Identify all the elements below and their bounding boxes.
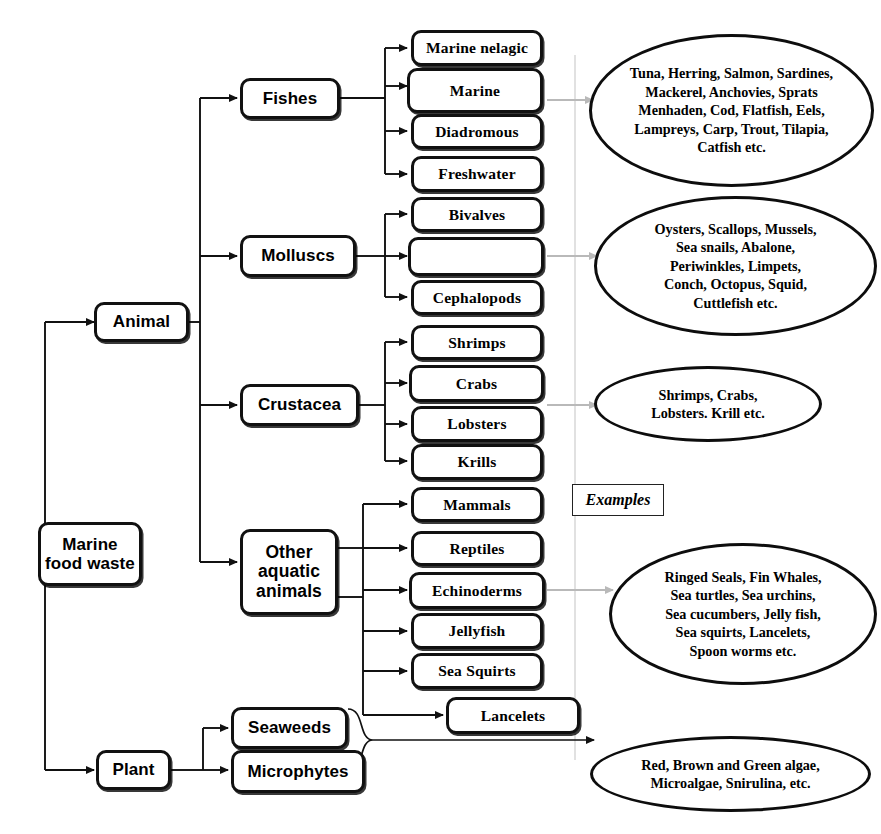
ellipse-text: Oysters, Scallops, Mussels, Sea snails, … [641,220,831,312]
node-seaweeds[interactable]: Seaweeds [231,707,348,749]
node-fishes[interactable]: Fishes [240,78,340,119]
node-other-aquatic-animals[interactable]: Other aquatic animals [240,529,338,615]
node-echinoderms[interactable]: Echinoderms [409,572,545,609]
ellipse-text: Ringed Seals, Fin Whales, Sea turtles, S… [650,568,835,660]
node-label: Marine [450,82,500,99]
node-label: Molluscs [261,246,335,265]
node-krills[interactable]: Krills [411,444,543,480]
node-label: Lobsters [447,415,506,432]
node-label: Freshwater [438,165,515,182]
ellipse-text: Shrimps, Crabs, Lobsters. Krill etc. [637,386,778,423]
node-crabs[interactable]: Crabs [409,365,544,402]
node-lancelets[interactable]: Lancelets [446,697,580,734]
ellipse-plant-examples: Red, Brown and Green algae, Microalgae, … [590,736,871,812]
ellipse-text: Tuna, Herring, Salmon, Sardines, Mackere… [616,64,847,156]
node-marine-nelagic[interactable]: Marine nelagic [411,30,543,66]
node-label: Fishes [263,89,317,108]
node-label: Lancelets [481,707,546,724]
node-jellyfish[interactable]: Jellyfish [411,613,543,649]
ellipse-crustacea-examples: Shrimps, Crabs, Lobsters. Krill etc. [594,366,822,442]
ellipse-fish-examples: Tuna, Herring, Salmon, Sardines, Mackere… [589,34,874,187]
node-diadromous[interactable]: Diadromous [411,114,543,149]
node-marine[interactable]: Marine [407,68,543,113]
node-label: Other aquatic animals [256,543,322,602]
diagram-canvas: Marine food waste Animal Plant Fishes Mo… [0,0,881,834]
node-bivalves[interactable]: Bivalves [411,197,543,232]
node-label: Echinoderms [432,582,522,599]
node-reptiles[interactable]: Reptiles [411,531,543,566]
node-label: Mammals [443,496,511,513]
node-cephalopods[interactable]: Cephalopods [411,280,543,315]
node-label: Shrimps [448,334,505,351]
node-label: Plant [112,760,154,779]
node-label: Diadromous [435,123,519,140]
node-lobsters[interactable]: Lobsters [411,406,543,442]
node-label: Seaweeds [248,718,331,737]
node-mammals[interactable]: Mammals [411,487,543,522]
examples-caption-label: Examples [586,491,651,509]
node-label: Jellyfish [449,622,506,639]
node-freshwater[interactable]: Freshwater [411,156,543,192]
ellipse-mollusc-examples: Oysters, Scallops, Mussels, Sea snails, … [594,196,877,336]
ellipse-text: Red, Brown and Green algae, Microalgae, … [627,756,833,793]
node-label: Microphytes [247,762,348,781]
node-marine-food-waste[interactable]: Marine food waste [38,522,142,586]
node-molluscs[interactable]: Molluscs [240,235,356,277]
examples-caption: Examples [572,484,664,516]
node-shrimps[interactable]: Shrimps [411,325,543,360]
node-label: Krills [457,453,496,470]
node-label: Reptiles [450,540,505,557]
node-label: Animal [113,312,170,331]
node-label: Crabs [456,375,497,392]
node-plant[interactable]: Plant [96,750,171,790]
node-sea-squirts[interactable]: Sea Squirts [411,653,543,689]
node-crustacea[interactable]: Crustacea [240,384,359,426]
node-label: Bivalves [449,206,506,223]
node-mollusc-unlabeled[interactable] [408,237,544,276]
node-label: Marine nelagic [426,39,528,56]
node-label: Crustacea [258,395,341,414]
node-animal[interactable]: Animal [94,302,189,342]
node-label: Cephalopods [433,289,521,306]
node-label: Sea Squirts [438,662,516,679]
node-microphytes[interactable]: Microphytes [231,750,365,793]
node-label: Marine food waste [45,535,135,573]
ellipse-other-examples: Ringed Seals, Fin Whales, Sea turtles, S… [609,543,877,685]
